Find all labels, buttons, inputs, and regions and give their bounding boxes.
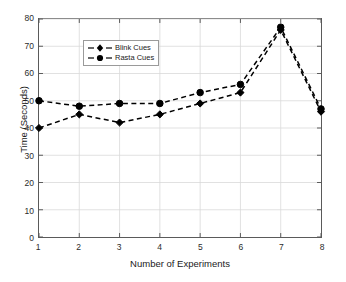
x-tick-label: 3 xyxy=(107,243,131,252)
data-point xyxy=(156,111,163,118)
x-tick-label: 6 xyxy=(229,243,253,252)
legend-marker-diamond-icon xyxy=(87,43,113,53)
data-point xyxy=(237,81,244,88)
x-tick-label: 7 xyxy=(269,243,293,252)
x-axis-title: Number of Experiments xyxy=(38,258,322,269)
y-tick-label: 80 xyxy=(0,14,34,23)
data-point xyxy=(116,119,123,126)
y-tick-label: 30 xyxy=(0,152,34,161)
legend-label-1: Rasta Cues xyxy=(113,54,154,62)
x-tick-label: 8 xyxy=(310,243,334,252)
data-point xyxy=(36,97,43,104)
data-point xyxy=(277,24,284,31)
data-point xyxy=(318,106,325,113)
y-tick-label: 40 xyxy=(0,124,34,133)
x-tick-label: 4 xyxy=(148,243,172,252)
y-tick-label: 10 xyxy=(0,207,34,216)
data-point xyxy=(76,103,83,110)
y-tick-label: 50 xyxy=(0,97,34,106)
plot-area: Blink Cues Rasta Cues xyxy=(38,18,322,238)
y-tick-label: 60 xyxy=(0,69,34,78)
data-point xyxy=(237,89,244,96)
y-axis-tick-labels: 01020304050607080 xyxy=(0,18,34,238)
y-tick-label: 20 xyxy=(0,179,34,188)
data-point xyxy=(76,111,83,118)
series-1 xyxy=(36,24,325,112)
data-point xyxy=(197,100,204,107)
legend-marker-circle-icon xyxy=(87,53,113,63)
series-0 xyxy=(35,26,324,131)
y-tick-label: 70 xyxy=(0,42,34,51)
legend[interactable]: Blink Cues Rasta Cues xyxy=(83,40,159,66)
chart-figure: Time (Seconds) 01020304050607080 Blink C… xyxy=(0,0,346,282)
y-tick-label: 0 xyxy=(0,234,34,243)
x-tick-label: 5 xyxy=(188,243,212,252)
data-point xyxy=(197,89,204,96)
data-point xyxy=(157,100,164,107)
legend-item-0[interactable]: Blink Cues xyxy=(87,43,154,53)
x-axis-tick-labels: 12345678 xyxy=(38,243,322,255)
legend-label-0: Blink Cues xyxy=(113,44,151,52)
legend-item-1[interactable]: Rasta Cues xyxy=(87,53,154,63)
x-tick-label: 2 xyxy=(67,243,91,252)
x-tick-label: 1 xyxy=(26,243,50,252)
data-series-layer xyxy=(39,19,321,237)
data-point xyxy=(35,124,42,131)
data-point xyxy=(116,100,123,107)
